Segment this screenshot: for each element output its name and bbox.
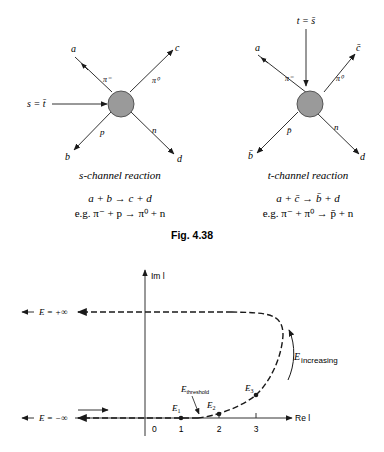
s-label-n: n [152, 125, 157, 135]
s-incoming-label: s = t̄ [27, 98, 47, 109]
s-channel-title: s-channel reaction [79, 169, 161, 181]
t-label-a: a [255, 42, 260, 53]
t-leg-b [257, 112, 298, 153]
label-e2: E2 [206, 400, 216, 411]
tick-label-1: 1 [179, 424, 184, 434]
tick-label-2: 2 [217, 424, 222, 434]
t-channel-example: e.g. π⁻ + π⁰ → p̄ + n [263, 207, 354, 219]
s-channel-diagram: a c b d π⁻ π⁰ p n s = t̄ s-channel react… [27, 42, 183, 181]
s-channel-equation: a + b → c + d [88, 192, 152, 204]
label-e3: E3 [244, 383, 254, 394]
t-incoming-label: t = s̄ [297, 15, 316, 26]
t-leg-a-arrow-icon [263, 59, 268, 63]
t-channel-title: t-channel reaction [268, 169, 349, 181]
increasing-label: Eincreasing [293, 351, 338, 365]
s-channel-example: e.g. π⁻ + p → π⁰ + n [75, 207, 166, 219]
tick-label-3: 3 [254, 424, 259, 434]
s-leg-b [74, 111, 112, 150]
increasing-arrow-icon [288, 330, 294, 380]
t-leg-c [324, 54, 355, 92]
s-label-d: d [177, 153, 183, 164]
s-label-c: c [175, 42, 180, 53]
tick-label-0: 0 [152, 424, 157, 434]
figure-caption: Fig. 4.38 [171, 229, 213, 241]
label-e1: E1 [171, 403, 181, 414]
t-label-d: d [360, 151, 366, 162]
point-e1 [179, 416, 184, 421]
t-label-c: c̄ [356, 42, 361, 53]
minus-inf-label: E = −∞ [38, 413, 68, 423]
t-label-n: n [334, 122, 339, 132]
re-axis-label: Re l [295, 413, 310, 423]
point-e3 [254, 393, 259, 398]
s-leg-a-arrow-icon [83, 65, 88, 70]
plus-inf-label: E = +∞ [38, 307, 68, 317]
t-label-pi-minus: π⁻ [285, 74, 294, 83]
s-label-pi-zero: π⁰ [152, 76, 161, 85]
threshold-label: Ethreshold [180, 384, 209, 395]
figure-canvas: a c b d π⁻ π⁰ p n s = t̄ s-channel react… [0, 0, 384, 452]
t-label-b: b̄ [248, 150, 253, 161]
t-label-pi-zero: π⁰ [336, 74, 345, 83]
s-vertex-blob [108, 91, 134, 117]
s-label-b: b [65, 151, 70, 162]
im-axis-label: Im l [151, 271, 165, 281]
threshold-pointer-icon [192, 396, 199, 414]
t-leg-d [316, 112, 359, 154]
s-label-pi-minus: π⁻ [103, 75, 112, 84]
s-label-a: a [71, 43, 76, 54]
t-channel-diagram: a c̄ b̄ d π⁻ π⁰ p̄ n t = s̄ t-channel re… [248, 15, 366, 181]
regge-plot: Im l Re l 0 1 2 3 E = +∞ E = −∞ E1 E2 E3… [22, 270, 338, 436]
s-label-p: p [99, 127, 105, 137]
t-channel-equation: a + c̄ → b̄ + d [276, 192, 340, 204]
s-leg-c [130, 50, 173, 92]
t-vertex-blob [297, 91, 323, 117]
t-label-p: p̄ [286, 125, 292, 135]
